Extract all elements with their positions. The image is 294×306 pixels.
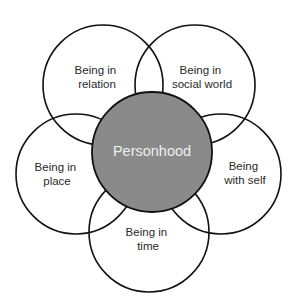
- petal-label-time-line1: Being in: [126, 226, 168, 238]
- petal-label-relation-line2: relation: [78, 78, 116, 90]
- petal-label-place-line2: place: [43, 175, 71, 187]
- petal-label-time-line2: time: [137, 240, 159, 252]
- petal-label-self-line2: with self: [223, 174, 266, 186]
- petal-label-relation-line1: Being in: [75, 64, 117, 76]
- personhood-diagram: Personhood Being in relation Being in so…: [0, 0, 294, 306]
- petal-label-social-world-line1: Being in: [180, 64, 222, 76]
- petal-label-self-line1: Being: [229, 160, 258, 172]
- core-label: Personhood: [113, 143, 191, 159]
- petal-label-place-line1: Being in: [35, 161, 77, 173]
- petal-label-social-world-line2: social world: [172, 78, 232, 90]
